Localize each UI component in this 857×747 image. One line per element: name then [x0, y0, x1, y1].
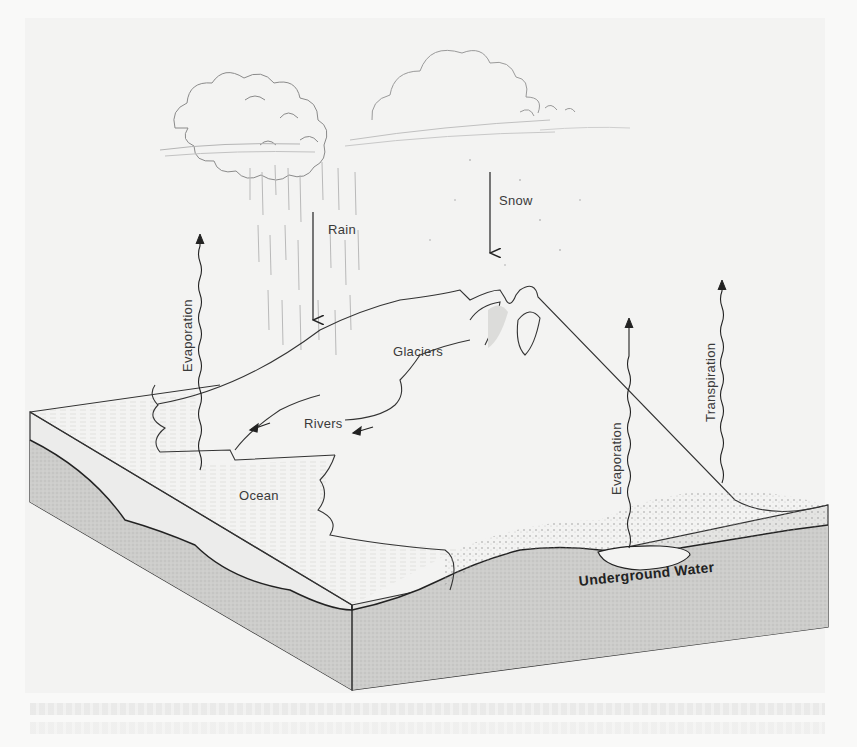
figure-page: Rain Snow Evaporation Glaciers Rivers Oc… — [0, 0, 857, 747]
label-glaciers: Glaciers — [393, 344, 443, 359]
evaporation-ocean-arrow — [199, 236, 202, 470]
rain-streaks — [250, 162, 359, 355]
bleed-through-line — [30, 722, 825, 734]
label-ocean: Ocean — [239, 488, 279, 503]
snow-cloud — [345, 50, 630, 146]
label-rain: Rain — [328, 222, 356, 237]
water-cycle-diagram — [0, 0, 857, 747]
snow-flakes — [429, 159, 580, 265]
label-evaporation-land: Evaporation — [609, 422, 624, 495]
label-transpiration: Transpiration — [703, 343, 718, 422]
label-evaporation-ocean: Evaporation — [180, 299, 195, 372]
label-snow: Snow — [499, 193, 533, 208]
label-rivers: Rivers — [304, 416, 343, 431]
transpiration-arrow — [721, 290, 724, 483]
bleed-through-line — [30, 703, 825, 715]
glacier — [488, 305, 508, 348]
rain-cloud — [160, 73, 327, 180]
